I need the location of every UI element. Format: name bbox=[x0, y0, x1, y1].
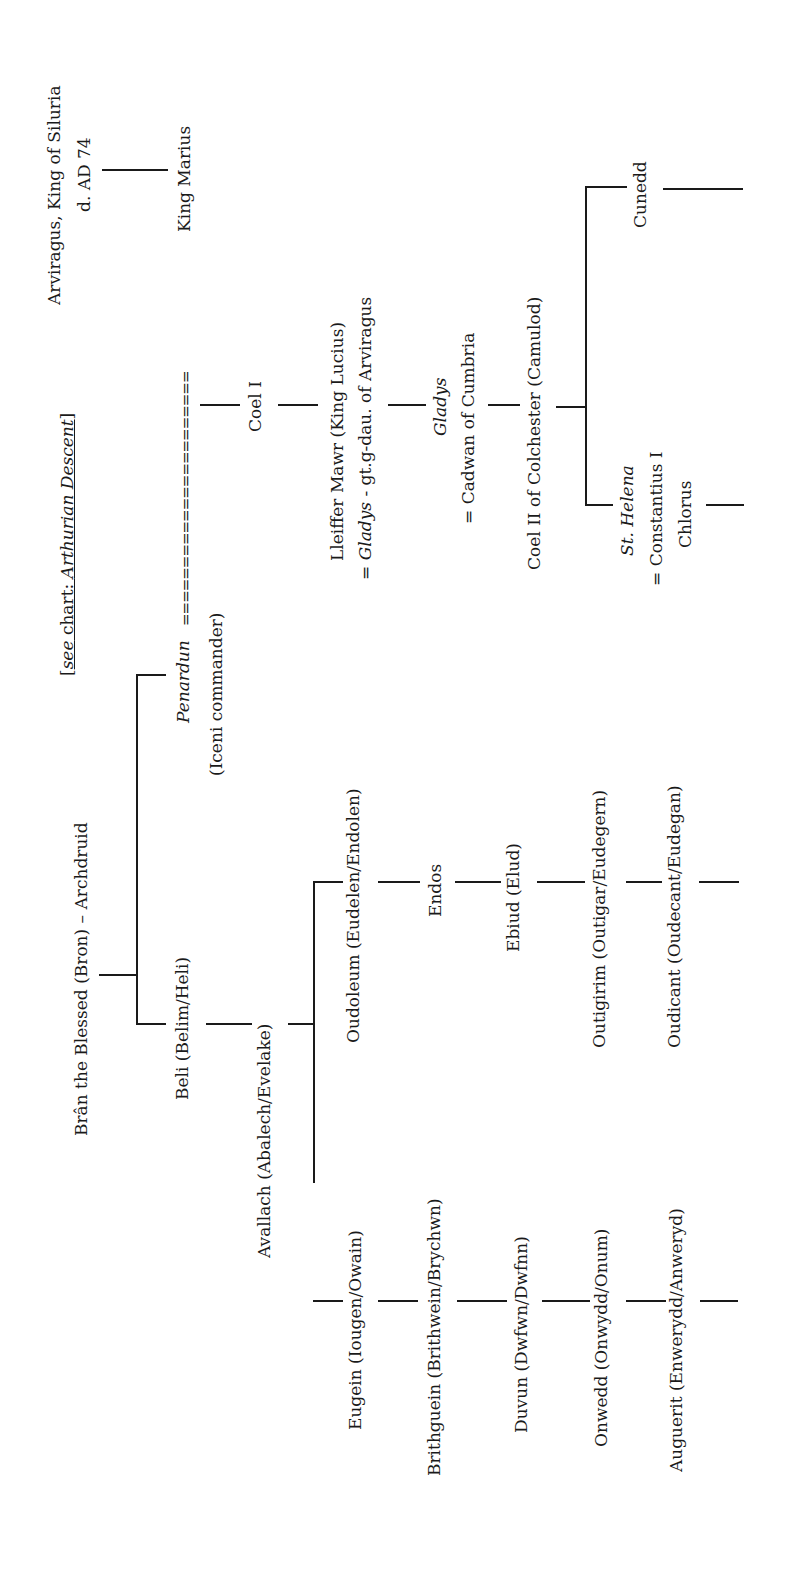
person-king-marius: King Marius bbox=[174, 126, 194, 232]
person-st-helena: St. Helena bbox=[617, 465, 637, 556]
line-gladys-coel2 bbox=[488, 404, 520, 406]
person-coel-1: Coel I bbox=[245, 381, 265, 432]
person-eugein: Eugein (Iougen/Owain) bbox=[345, 1230, 365, 1430]
arviragus-name: Arviragus, King of Siluria bbox=[44, 85, 64, 305]
line-beli-avallach bbox=[206, 1023, 252, 1025]
penardun-note: (Iceni commander) bbox=[206, 612, 226, 776]
person-bran: Brân the Blessed (Bron) – Archdruid bbox=[71, 822, 91, 1136]
line-outigirim-oudicant bbox=[626, 881, 662, 883]
line-bran-stem bbox=[99, 974, 137, 976]
line-ebiud-outigirim bbox=[537, 881, 585, 883]
line-onwedd-auguerit bbox=[626, 1300, 666, 1302]
line-oudoleum-endos bbox=[378, 881, 420, 883]
line-marriage-coel1 bbox=[200, 404, 240, 406]
line-to-eugein bbox=[313, 1300, 343, 1302]
line-to-penardun bbox=[136, 674, 166, 676]
line-brithguein-duvun bbox=[457, 1300, 507, 1302]
person-duvun: Duvun (Dwfwn/Dwfnn) bbox=[511, 1236, 531, 1433]
reference-note[interactable]: [see chart: Arthurian Descent] bbox=[57, 413, 77, 676]
line-oudicant-descent bbox=[699, 881, 739, 883]
person-oudicant: Oudicant (Oudecant/Eudegan) bbox=[664, 785, 684, 1048]
person-brithguein: Brithguein (Brithwein/Brychwn) bbox=[424, 1198, 444, 1476]
line-helena-descent bbox=[706, 504, 744, 506]
person-gladys: Gladys bbox=[430, 378, 450, 436]
person-avallach: Avallach (Abalech/Evelake) bbox=[254, 1024, 274, 1258]
person-arviragus-death: d. AD 74 bbox=[74, 137, 94, 212]
person-arviragus: Arviragus, King of Siluria bbox=[44, 85, 64, 305]
person-cunedd: Cunedd bbox=[630, 161, 650, 228]
arviragus-death: d. AD 74 bbox=[74, 137, 94, 212]
gladys-spouse: = Cadwan of Cumbria bbox=[458, 333, 478, 524]
person-endos: Endos bbox=[425, 864, 445, 917]
marriage-symbol: ====================== bbox=[176, 371, 196, 626]
line-coel2-bracket bbox=[556, 406, 586, 408]
line-cunedd-descent bbox=[663, 188, 743, 190]
person-onwedd: Onwedd (Onwydd/Onum) bbox=[591, 1229, 611, 1447]
line-auguerit-descent bbox=[700, 1300, 738, 1302]
line-eugein-brithguein bbox=[378, 1300, 418, 1302]
line-to-helena bbox=[585, 504, 613, 506]
lleiffer-spouse: = Gladys - gt.g-dau. of Arviragus bbox=[355, 297, 375, 580]
see-word: see bbox=[57, 641, 77, 670]
person-ebiud: Ebiud (Elud) bbox=[503, 843, 523, 952]
line-to-oudoleum bbox=[313, 881, 343, 883]
person-penardun: Penardun bbox=[173, 640, 193, 723]
line-coel2-bracket-vertical bbox=[585, 186, 587, 506]
helena-spouse-line2: Chlorus bbox=[675, 481, 695, 548]
person-oudoleum: Oudoleum (Eudelen/Endolen) bbox=[343, 788, 363, 1043]
line-lleiffer-gladys bbox=[388, 404, 426, 406]
line-endos-ebiud bbox=[455, 881, 501, 883]
helena-spouse: = Constantius I bbox=[646, 451, 666, 586]
person-beli: Beli (Belim/Heli) bbox=[172, 957, 192, 1100]
line-coel1-lleiffer bbox=[278, 404, 318, 406]
line-to-cunedd bbox=[585, 186, 627, 188]
line-bran-bracket bbox=[136, 674, 138, 1024]
person-lleiffer: Lleiffer Mawr (King Lucius) bbox=[327, 322, 347, 561]
person-coel-2: Coel II of Colchester (Camulod) bbox=[524, 297, 544, 570]
line-avallach-bracket bbox=[288, 1023, 314, 1025]
person-auguerit: Auguerit (Enwerydd/Anweryd) bbox=[666, 1208, 686, 1472]
line-arviragus-marius bbox=[102, 169, 168, 171]
line-to-beli bbox=[136, 1023, 166, 1025]
person-outigirim: Outigirim (Outigar/Eudegern) bbox=[589, 790, 609, 1048]
line-avallach-bracket-vertical bbox=[313, 881, 315, 1183]
line-duvun-onwedd bbox=[542, 1300, 590, 1302]
chart-link[interactable]: Arthurian Descent bbox=[57, 419, 77, 578]
